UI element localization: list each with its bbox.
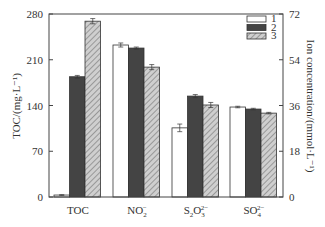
left-tick-label: 70 — [32, 145, 44, 157]
left-tick-label: 210 — [27, 54, 44, 66]
legend-swatch-3 — [247, 33, 266, 39]
bar-3-2 — [203, 105, 219, 197]
bar-1-2 — [172, 128, 188, 197]
right-tick-label: 54 — [289, 54, 301, 66]
legend-swatch-2 — [247, 25, 266, 31]
right-axis-title: Ion concentration/(mmol·L⁻¹) — [304, 40, 317, 173]
right-tick-label: 72 — [289, 8, 300, 20]
bar-3-3 — [261, 113, 277, 197]
bar-3-0 — [85, 21, 101, 197]
legend-swatch-1 — [247, 16, 266, 22]
category-label: NO2− — [127, 204, 147, 219]
bar-2-2 — [188, 96, 204, 197]
bar-1-1 — [113, 45, 129, 197]
bar-chart: 070140210280 018365472 TOCNO2−S2O32−SO42… — [0, 0, 325, 227]
bar-2-3 — [246, 109, 262, 197]
bar-2-0 — [70, 77, 86, 197]
left-axis-title: TOC/(mg·L⁻¹) — [10, 73, 23, 139]
legend: 123 — [247, 12, 277, 41]
left-tick-label: 140 — [27, 100, 44, 112]
bar-3-1 — [144, 67, 160, 197]
left-tick-label: 280 — [27, 8, 44, 20]
bars-layer — [54, 19, 277, 197]
bar-2-1 — [129, 48, 145, 197]
legend-label-3: 3 — [271, 29, 277, 41]
category-label: S2O32− — [184, 204, 209, 219]
bar-1-3 — [230, 107, 246, 197]
category-label: TOC — [67, 204, 89, 216]
category-labels: TOCNO2−S2O32−SO42− — [67, 204, 264, 219]
right-tick-label: 36 — [289, 100, 301, 112]
right-tick-label: 0 — [289, 191, 295, 203]
right-tick-label: 18 — [289, 145, 301, 157]
right-axis: 018365472 — [279, 8, 301, 203]
left-tick-label: 0 — [38, 191, 44, 203]
category-label: SO42− — [243, 204, 264, 219]
